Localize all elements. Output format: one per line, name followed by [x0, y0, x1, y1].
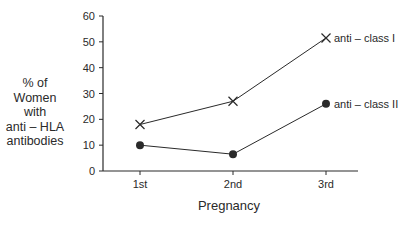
y-axis-label-line: % of — [22, 76, 48, 90]
y-axis-label: % ofWomenwithanti – HLAantibodies — [6, 76, 65, 148]
x-marker-icon — [322, 33, 331, 42]
dot-marker-icon — [229, 150, 237, 158]
series-line — [140, 38, 326, 125]
x-tick-label: 2nd — [224, 178, 242, 190]
line-chart: % ofWomenwithanti – HLAantibodies 010203… — [0, 0, 404, 226]
y-axis-label-line: with — [23, 105, 46, 119]
x-tick-label: 3rd — [318, 178, 334, 190]
y-axis-label-line: antibodies — [7, 134, 64, 148]
series-legend-label: anti – class II — [334, 98, 398, 110]
data-series: anti – class Ianti – class II — [136, 32, 399, 158]
y-axis-label-line: anti – HLA — [6, 120, 65, 134]
y-tick-label: 10 — [83, 139, 95, 151]
series-anti-class-ii: anti – class II — [136, 98, 398, 158]
series-legend-label: anti – class I — [334, 32, 395, 44]
y-axis-label-line: Women — [14, 91, 57, 105]
x-tick-label: 1st — [133, 178, 148, 190]
x-marker-icon — [229, 97, 238, 106]
y-tick-label: 60 — [83, 10, 95, 22]
x-axis-label: Pregnancy — [198, 198, 261, 213]
y-tick-label: 40 — [83, 62, 95, 74]
y-tick-label: 50 — [83, 36, 95, 48]
series-line — [140, 104, 326, 154]
x-marker-icon — [136, 120, 145, 129]
series-anti-class-i: anti – class I — [136, 32, 396, 129]
y-axis: 0102030405060 — [83, 10, 103, 177]
y-tick-label: 20 — [83, 113, 95, 125]
x-axis: 1st2nd3rd — [103, 171, 358, 190]
dot-marker-icon — [136, 141, 144, 149]
dot-marker-icon — [322, 100, 330, 108]
y-tick-label: 30 — [83, 88, 95, 100]
y-tick-label: 0 — [89, 165, 95, 177]
